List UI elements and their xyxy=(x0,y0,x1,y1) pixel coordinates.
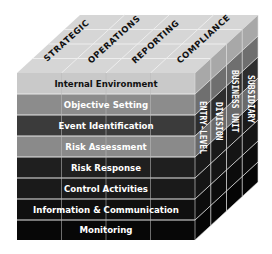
component-internal-environment: Internal Environment xyxy=(54,79,157,89)
component-risk-response: Risk Response xyxy=(71,163,141,173)
component-risk-assessment: Risk Assessment xyxy=(65,142,146,152)
component-information-communication: Information & Communication xyxy=(33,205,179,215)
component-control-activities: Control Activities xyxy=(64,184,148,194)
front-face: Internal Environment Objective Setting E… xyxy=(17,73,195,240)
level-division: DIVISION xyxy=(214,102,223,141)
component-objective-setting: Objective Setting xyxy=(64,100,148,110)
level-business-unit: BUSINESS UNIT xyxy=(230,70,239,133)
level-entry-level: ENTRY-LEVEL xyxy=(198,101,207,154)
component-monitoring: Monitoring xyxy=(80,225,133,235)
level-subsidiary: SUBSIDIARY xyxy=(246,75,255,123)
erm-cube-diagram: STRATEGIC OPERATIONS REPORTING COMPLIANC… xyxy=(0,0,272,254)
component-event-identification: Event Identification xyxy=(58,121,153,131)
